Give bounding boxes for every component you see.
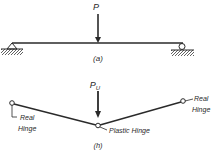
load-arrow-icon xyxy=(95,14,101,43)
right-hinge-leader xyxy=(185,99,193,101)
plastic-hinge-label: Plastic Hinge xyxy=(109,127,150,135)
left-hinge-label-line1: Real xyxy=(20,114,35,121)
caption-b: (h) xyxy=(93,141,103,150)
part-b-mechanism-diagram: PU Real Hinge Plastic Hinge Real Hinge (… xyxy=(10,80,211,150)
ultimate-load-label: PU xyxy=(90,80,101,91)
ultimate-load-arrow-icon xyxy=(95,91,101,118)
plastic-hinge-leader xyxy=(100,127,107,130)
right-hinge-label-line1: Real xyxy=(194,95,209,102)
plastic-hinge-diagram: P (a) PU Real Hinge Plastic Hinge Real H… xyxy=(0,0,218,157)
right-beam-segment xyxy=(100,102,181,125)
left-hinge-leader xyxy=(12,105,17,117)
plastic-hinge-icon xyxy=(96,123,101,128)
right-hinge-label-line2: Hinge xyxy=(192,106,210,114)
pin-support-icon xyxy=(1,43,23,55)
load-label-p: P xyxy=(93,2,99,12)
part-a-beam-diagram: P (a) xyxy=(1,2,194,63)
right-real-hinge-icon xyxy=(181,99,186,104)
roller-support-icon xyxy=(171,44,194,57)
caption-a: (a) xyxy=(93,54,103,63)
left-hinge-label-line2: Hinge xyxy=(18,125,36,133)
left-real-hinge-icon xyxy=(10,101,15,106)
